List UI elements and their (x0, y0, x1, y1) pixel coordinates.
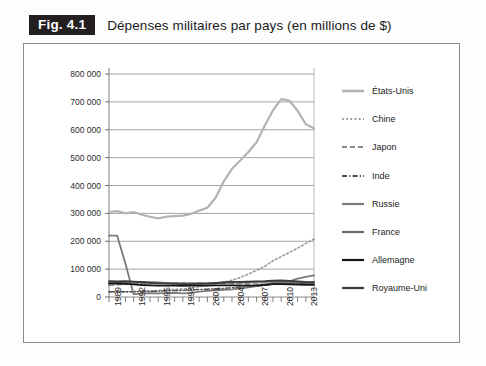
legend-label: Inde (372, 171, 390, 181)
y-tick-label: 200 000 (41, 236, 101, 246)
legend-label: États-Unis (372, 86, 414, 96)
figure-title: Dépenses militaires par pays (en million… (107, 18, 392, 33)
x-tick-label: 1992 (137, 287, 147, 306)
legend-item[interactable]: France (342, 218, 460, 246)
x-tick-label: 2010 (285, 287, 295, 306)
x-tick-label: 1998 (186, 287, 196, 306)
legend-label: Russie (372, 199, 400, 209)
legend-label: Royaume-Uni (372, 283, 427, 293)
legend-line-icon (342, 114, 364, 124)
legend-item[interactable]: Japon (342, 133, 460, 161)
x-tick-label: 2004 (236, 287, 246, 306)
x-tick-label: 1989 (113, 287, 123, 306)
legend-line-icon (342, 86, 364, 96)
x-tick-label: 2001 (211, 287, 221, 306)
y-tick-label: 400 000 (41, 181, 101, 191)
legend-line-icon (342, 283, 364, 293)
y-tick-label: 0 (41, 292, 101, 302)
legend-line-icon (342, 199, 364, 209)
y-tick-label: 100 000 (41, 264, 101, 274)
legend-label: Allemagne (372, 255, 415, 265)
chart-frame: 800 000700 000600 000500 000400 000300 0… (23, 43, 460, 343)
chart-legend: États-UnisChineJaponIndeRussieFranceAlle… (342, 77, 460, 303)
legend-line-icon (342, 255, 364, 265)
legend-item[interactable]: Allemagne (342, 246, 460, 274)
legend-line-icon (342, 142, 364, 152)
x-tick-label: 2013 (309, 287, 319, 306)
legend-item[interactable]: États-Unis (342, 77, 460, 105)
figure-number-badge: Fig. 4.1 (29, 15, 95, 36)
figure-title-row: Fig. 4.1 Dépenses militaires par pays (e… (29, 14, 392, 36)
y-tick-label: 800 000 (41, 69, 101, 79)
legend-line-icon (342, 227, 364, 237)
legend-label: Japon (372, 142, 397, 152)
y-tick-label: 700 000 (41, 97, 101, 107)
legend-label: Chine (372, 114, 396, 124)
x-tick-label: 2007 (260, 287, 270, 306)
y-tick-label: 300 000 (41, 208, 101, 218)
legend-item[interactable]: Russie (342, 190, 460, 218)
legend-line-icon (342, 171, 364, 181)
legend-item[interactable]: Inde (342, 162, 460, 190)
plot-area: 800 000700 000600 000500 000400 000300 0… (24, 44, 461, 344)
x-tick-label: 1995 (162, 287, 172, 306)
figure-root: Fig. 4.1 Dépenses militaires par pays (e… (0, 0, 486, 366)
series-line (109, 99, 314, 218)
y-tick-label: 500 000 (41, 153, 101, 163)
legend-item[interactable]: Royaume-Uni (342, 274, 460, 302)
y-tick-label: 600 000 (41, 125, 101, 135)
legend-item[interactable]: Chine (342, 105, 460, 133)
legend-label: France (372, 227, 400, 237)
